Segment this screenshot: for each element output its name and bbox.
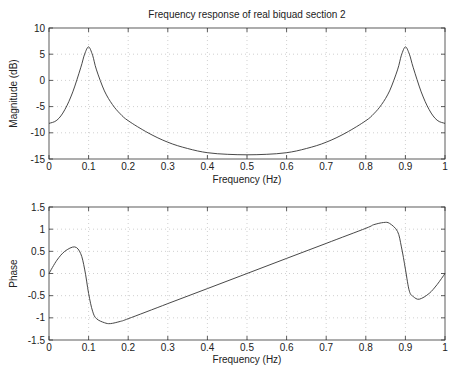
chart-title: Frequency response of real biquad sectio… (148, 9, 346, 20)
x-tick-label: 0.9 (398, 342, 412, 353)
axes-box (49, 28, 445, 159)
y-tick-label: -0.5 (28, 290, 46, 301)
y-tick-label: -5 (36, 101, 45, 112)
x-tick-label: 0.6 (280, 161, 294, 172)
y-tick-label: 1 (39, 224, 45, 235)
x-tick-label: 0.9 (398, 161, 412, 172)
x-tick-label: 0.3 (161, 342, 175, 353)
y-tick-label: 0 (39, 75, 45, 86)
y-tick-label: -10 (31, 127, 46, 138)
x-tick-label: 0 (46, 342, 52, 353)
x-tick-label: 0.1 (82, 342, 96, 353)
magnitude-plot: 00.10.20.30.40.50.60.70.80.911050-5-10-1… (8, 9, 448, 185)
x-axis-label: Frequency (Hz) (213, 174, 282, 185)
y-tick-label: -15 (31, 154, 46, 165)
x-tick-label: 0.7 (319, 342, 333, 353)
x-tick-label: 0.3 (161, 161, 175, 172)
x-tick-label: 0 (46, 161, 52, 172)
y-tick-label: -1 (36, 312, 45, 323)
data-line (49, 222, 445, 323)
x-tick-label: 0.7 (319, 161, 333, 172)
phase-plot: 00.10.20.30.40.50.60.70.80.911.510.50-0.… (8, 202, 448, 366)
y-tick-label: 1.5 (31, 202, 45, 213)
y-tick-label: 0 (39, 268, 45, 279)
x-tick-label: 0.8 (359, 161, 373, 172)
x-tick-label: 0.6 (280, 342, 294, 353)
figure: 00.10.20.30.40.50.60.70.80.911050-5-10-1… (0, 0, 462, 375)
x-tick-label: 0.5 (240, 342, 254, 353)
x-tick-label: 0.2 (121, 161, 135, 172)
x-tick-label: 0.2 (121, 342, 135, 353)
x-tick-label: 0.1 (82, 161, 96, 172)
x-tick-label: 0.5 (240, 161, 254, 172)
y-axis-label: Magnitude (dB) (8, 59, 19, 127)
y-tick-label: 5 (39, 49, 45, 60)
y-tick-label: 10 (34, 23, 46, 34)
x-axis-label: Frequency (Hz) (213, 354, 282, 365)
x-tick-label: 0.4 (200, 161, 214, 172)
x-tick-label: 1 (442, 161, 448, 172)
y-tick-label: -1.5 (28, 335, 46, 346)
x-tick-label: 0.8 (359, 342, 373, 353)
y-axis-label: Phase (8, 259, 19, 288)
y-tick-label: 0.5 (31, 246, 45, 257)
x-tick-label: 1 (442, 342, 448, 353)
x-tick-label: 0.4 (200, 342, 214, 353)
